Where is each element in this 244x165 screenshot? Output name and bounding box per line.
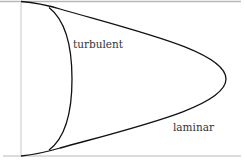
turbulent-label: turbulent [73,39,123,50]
pipe-flow-velocity-profile-diagram: turbulent laminar [0,0,244,165]
turbulent-profile-curve [49,8,72,151]
laminar-label: laminar [173,122,214,133]
diagram-canvas [0,0,244,165]
